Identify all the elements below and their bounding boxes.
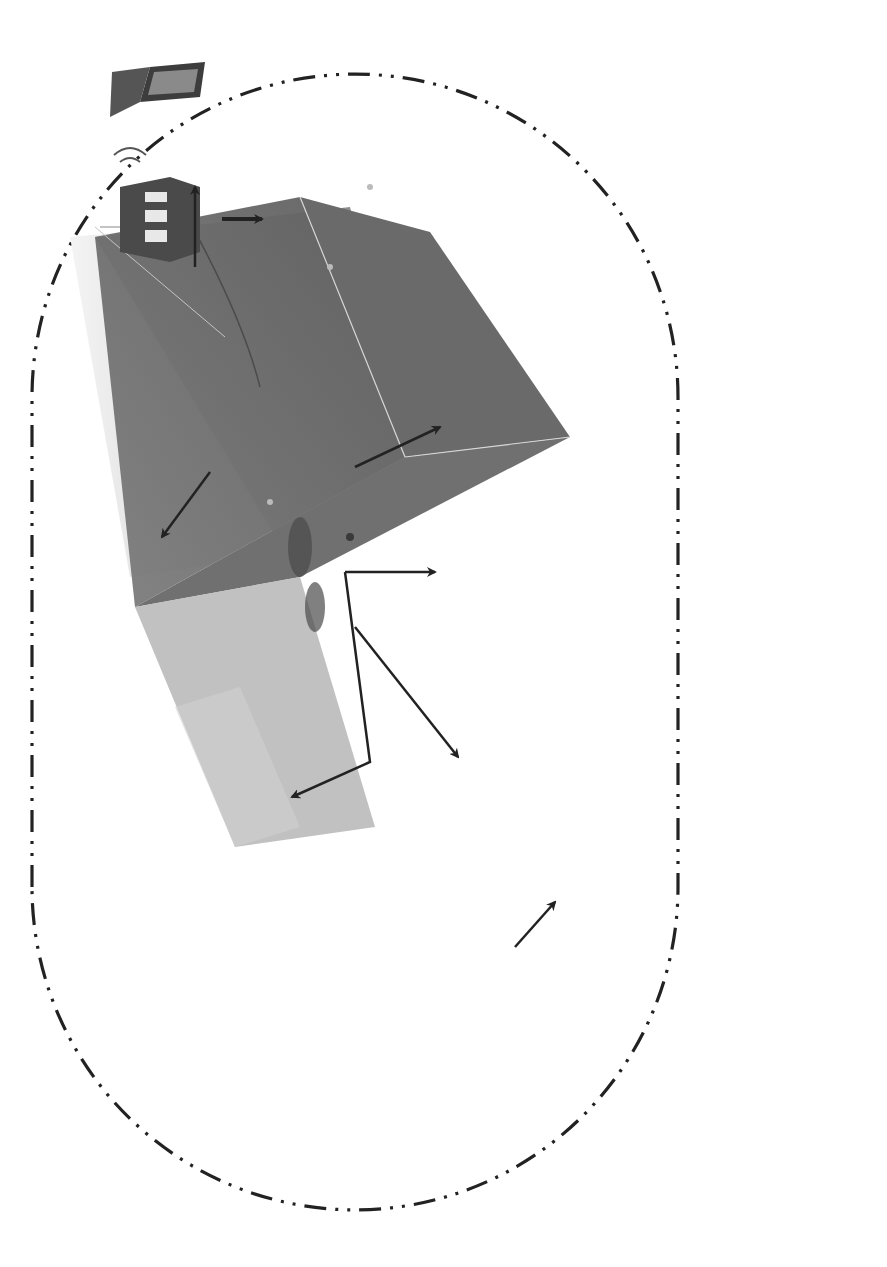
arrow-to-cytometers <box>355 627 458 757</box>
diagram-stage <box>0 0 887 1267</box>
arrow-other-sensors-to-seafloor <box>515 902 555 947</box>
diagram-graphics <box>0 0 887 1267</box>
wireless-signal-icon <box>114 148 146 162</box>
seafloor-scene-illustration <box>70 184 570 847</box>
laptop-network-icon <box>110 62 205 117</box>
